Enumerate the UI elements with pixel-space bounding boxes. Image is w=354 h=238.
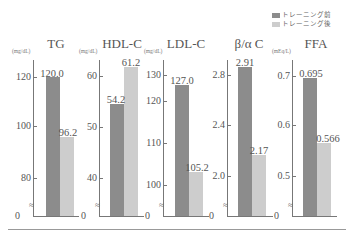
- value-label: 2.91: [236, 57, 254, 68]
- y-axis: [163, 60, 164, 216]
- tick: [33, 178, 37, 179]
- y-axis: [33, 60, 34, 216]
- bar-before: [110, 104, 124, 216]
- axis-break-icon: ≈: [29, 202, 34, 208]
- legend-item-after: トレーニング後: [272, 20, 331, 29]
- tick: [163, 101, 167, 102]
- unit-label: (mEq/L): [272, 48, 291, 54]
- y-axis: [292, 60, 293, 216]
- panel-title: HDL-C: [102, 36, 142, 52]
- tick-label: 0.5: [260, 170, 290, 181]
- y-axis: [227, 60, 228, 216]
- axis-break-icon: ≈: [95, 202, 100, 208]
- tick-label: 60: [67, 70, 97, 81]
- legend-item-before: トレーニング前: [272, 11, 331, 20]
- tick-label: 40: [67, 172, 97, 183]
- tick: [227, 176, 231, 177]
- tick-label: 130: [131, 69, 161, 80]
- legend: トレーニング前 トレーニング後: [272, 11, 331, 29]
- tick-label: 120: [1, 71, 31, 82]
- tick-label: 50: [67, 121, 97, 132]
- tick-label: 110: [131, 137, 161, 148]
- tick: [99, 178, 103, 179]
- y-axis: [99, 60, 100, 216]
- x-axis: [292, 216, 337, 217]
- panel-title: LDL-C: [167, 36, 205, 52]
- tick: [292, 125, 296, 126]
- bottom-rule: [8, 229, 346, 230]
- tick: [163, 185, 167, 186]
- axis-break-icon: ≈: [159, 202, 164, 208]
- tick-label: 2.0: [195, 170, 225, 181]
- unit-label: (mg/dL): [144, 48, 162, 54]
- bar-before: [303, 78, 317, 216]
- tick: [99, 127, 103, 128]
- tick-label: 2.4: [195, 119, 225, 130]
- tick-label: 0.6: [260, 119, 290, 130]
- tick-label: 0.7: [260, 70, 290, 81]
- legend-swatch-after: [272, 22, 280, 27]
- panel-title: TG: [47, 36, 64, 52]
- value-label: 120.0: [40, 68, 64, 79]
- value-label: 127.0: [170, 75, 194, 86]
- value-label: 61.2: [122, 57, 140, 68]
- tick: [33, 77, 37, 78]
- legend-label-after: トレーニング後: [282, 20, 331, 29]
- tick: [33, 126, 37, 127]
- tick-label: 0: [0, 210, 20, 221]
- tick-label: 0: [56, 210, 86, 221]
- tick: [292, 76, 296, 77]
- bar-before: [238, 67, 252, 216]
- axis-break-icon: ≈: [288, 202, 293, 208]
- bar-after: [252, 155, 266, 216]
- unit-label: (mg/dL): [12, 48, 30, 54]
- panel-title: FFA: [305, 36, 328, 52]
- tick-label: 0: [249, 210, 279, 221]
- tick: [99, 76, 103, 77]
- value-label: 0.566: [316, 133, 340, 144]
- tick-label: 0: [184, 210, 214, 221]
- tick-label: 100: [1, 120, 31, 131]
- value-label: 0.695: [299, 68, 323, 79]
- tick: [163, 143, 167, 144]
- bar-before: [175, 85, 189, 216]
- value-label: 2.17: [250, 145, 268, 156]
- tick-label: 100: [131, 179, 161, 190]
- bar-before: [46, 77, 60, 216]
- legend-swatch-before: [272, 13, 280, 18]
- axis-break-icon: ≈: [223, 202, 228, 208]
- bar-after: [317, 143, 331, 216]
- tick: [163, 75, 167, 76]
- tick-label: 120: [131, 95, 161, 106]
- tick-label: 80: [1, 172, 31, 183]
- tick-label: 0: [120, 210, 150, 221]
- panel-title: β/α C: [235, 36, 264, 52]
- legend-label-before: トレーニング前: [282, 11, 331, 20]
- value-label: 54.2: [107, 94, 125, 105]
- unit-label: (mg/dL): [79, 48, 97, 54]
- tick: [227, 125, 231, 126]
- tick-label: 2.8: [195, 69, 225, 80]
- tick: [292, 176, 296, 177]
- tick: [227, 75, 231, 76]
